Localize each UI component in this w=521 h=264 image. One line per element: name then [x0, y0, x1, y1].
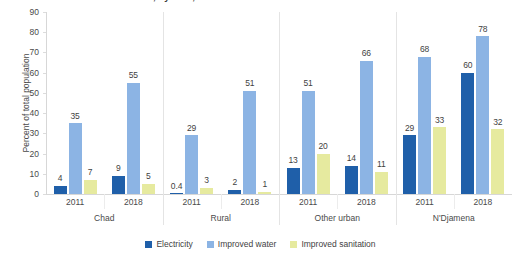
category-group-label: Chad	[46, 213, 163, 223]
bar-value-label: 0.4	[171, 182, 183, 191]
bar-value-label: 35	[70, 112, 79, 121]
bar[interactable]	[170, 193, 183, 194]
legend-item[interactable]: Electricity	[145, 240, 192, 249]
bar-group: 0.42932511	[163, 12, 280, 194]
legend-swatch	[290, 241, 297, 248]
category-period-label: 2011	[46, 197, 104, 207]
bar-slot: 5	[142, 12, 155, 194]
bar-slot: 55	[127, 12, 140, 194]
category-period-label: 2018	[337, 197, 395, 207]
bar[interactable]	[69, 123, 82, 194]
bar-value-label: 32	[493, 118, 502, 127]
category-period-label: 2011	[163, 197, 221, 207]
bar[interactable]	[258, 192, 271, 194]
category-periods: 20112018	[279, 197, 396, 207]
bar-slot: 14	[345, 12, 358, 194]
bar-period: 135120	[279, 12, 337, 194]
bar-value-label: 3	[204, 176, 209, 185]
bar-slot: 1	[258, 12, 271, 194]
bar-slot: 60	[461, 12, 474, 194]
bar[interactable]	[243, 91, 256, 194]
bar[interactable]	[287, 168, 300, 194]
plot-bars-area: 435795550.429325111351201466112968336078…	[46, 12, 512, 194]
bar-slot: 51	[302, 12, 315, 194]
bar-value-label: 78	[478, 25, 487, 34]
bar[interactable]	[200, 188, 213, 194]
bar-value-label: 20	[318, 142, 327, 151]
bar-slot: 13	[287, 12, 300, 194]
category-axis: 20112018Chad20112018Rural20112018Other u…	[46, 197, 512, 223]
bar-period: 0.4293	[163, 12, 221, 194]
category-period-label: 2018	[104, 197, 162, 207]
category-period-label: 2018	[221, 197, 279, 207]
category-periods: 20112018	[396, 197, 513, 207]
category-group-label: Other urban	[279, 213, 396, 223]
bar[interactable]	[317, 154, 330, 194]
bar-value-label: 5	[146, 172, 151, 181]
bar[interactable]	[375, 172, 388, 194]
bar[interactable]	[54, 186, 67, 194]
bar-value-label: 11	[377, 160, 386, 169]
bar[interactable]	[491, 129, 504, 194]
bar-value-label: 60	[463, 61, 472, 70]
bar[interactable]	[461, 73, 474, 194]
bar[interactable]	[84, 180, 97, 194]
bar[interactable]	[403, 135, 416, 194]
bar-slot: 68	[418, 12, 431, 194]
chart-figure: Access to basic services, by area, 2011 …	[0, 0, 521, 264]
bar-slot: 20	[317, 12, 330, 194]
bar-value-label: 1	[263, 180, 268, 189]
category-period-label: 2011	[279, 197, 337, 207]
bar-value-label: 9	[116, 164, 121, 173]
legend-label: Electricity	[156, 240, 192, 249]
bar-group: 43579555	[46, 12, 163, 194]
bar-period: 146611	[337, 12, 395, 194]
bar[interactable]	[127, 83, 140, 194]
bar-period: 4357	[46, 12, 104, 194]
bar-value-label: 68	[420, 45, 429, 54]
bar-slot: 33	[433, 12, 446, 194]
category-period-label: 2018	[454, 197, 512, 207]
bar-slot: 11	[375, 12, 388, 194]
bar-slot: 2	[228, 12, 241, 194]
category-periods: 20112018	[163, 197, 280, 207]
chart-legend: ElectricityImproved waterImproved sanita…	[0, 240, 521, 249]
category-group: 20112018Other urban	[279, 197, 396, 223]
legend-item[interactable]: Improved water	[207, 240, 277, 249]
bar[interactable]	[433, 127, 446, 194]
bar-slot: 78	[476, 12, 489, 194]
bar[interactable]	[345, 166, 358, 194]
bar-slot: 29	[403, 12, 416, 194]
legend-item[interactable]: Improved sanitation	[290, 240, 375, 249]
legend-swatch	[145, 241, 152, 248]
bar-value-label: 13	[288, 156, 297, 165]
legend-label: Improved sanitation	[301, 240, 375, 249]
bar-value-label: 4	[58, 174, 63, 183]
bar-slot: 0.4	[170, 12, 183, 194]
bar-slot: 51	[243, 12, 256, 194]
bar[interactable]	[360, 61, 373, 194]
category-group-label: Rural	[163, 213, 280, 223]
bar[interactable]	[418, 57, 431, 195]
bar-value-label: 55	[129, 71, 138, 80]
category-period-label: 2011	[396, 197, 454, 207]
category-group: 20112018Chad	[46, 197, 163, 223]
bar[interactable]	[302, 91, 315, 194]
bar[interactable]	[476, 36, 489, 194]
bar-slot: 35	[69, 12, 82, 194]
bar[interactable]	[228, 190, 241, 194]
legend-label: Improved water	[218, 240, 277, 249]
bar[interactable]	[142, 184, 155, 194]
chart-title: Access to basic services, by area, 2011 …	[38, 0, 263, 2]
bar-slot: 3	[200, 12, 213, 194]
category-group-label: N'Djamena	[396, 213, 513, 223]
bar-group: 296833607832	[396, 12, 513, 194]
bar-value-label: 29	[405, 124, 414, 133]
bar-value-label: 51	[245, 79, 254, 88]
bar[interactable]	[185, 135, 198, 194]
bar[interactable]	[112, 176, 125, 194]
bar-value-label: 2	[233, 178, 238, 187]
category-group: 20112018Rural	[163, 197, 280, 223]
bar-slot: 4	[54, 12, 67, 194]
bar-slot: 9	[112, 12, 125, 194]
